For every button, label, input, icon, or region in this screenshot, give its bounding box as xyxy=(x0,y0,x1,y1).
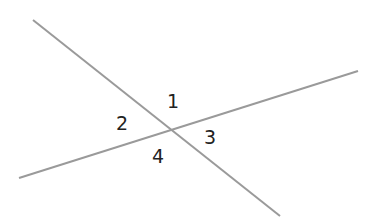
angle-label-2: 2 xyxy=(116,114,128,133)
angle-label-3: 3 xyxy=(204,128,216,147)
intersecting-lines-diagram: 1 2 3 4 xyxy=(0,0,372,218)
line-a xyxy=(33,20,280,216)
angle-label-4: 4 xyxy=(152,147,164,166)
line-b xyxy=(19,71,358,178)
lines-layer xyxy=(0,0,372,218)
angle-label-1: 1 xyxy=(167,92,179,111)
